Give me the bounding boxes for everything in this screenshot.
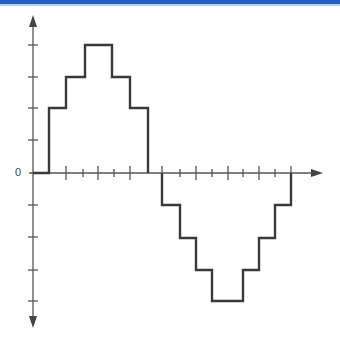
- y-arrow-up-icon: [29, 15, 37, 27]
- y-arrow-down-icon: [29, 316, 37, 328]
- axes: [28, 23, 315, 320]
- stepped-waveform-diagram: [0, 0, 340, 345]
- negative-half-wave: [162, 173, 291, 301]
- positive-half-wave: [33, 45, 148, 173]
- x-arrow-right-icon: [311, 169, 323, 177]
- axis-arrows: [29, 15, 323, 328]
- zero-label: 0: [15, 165, 21, 179]
